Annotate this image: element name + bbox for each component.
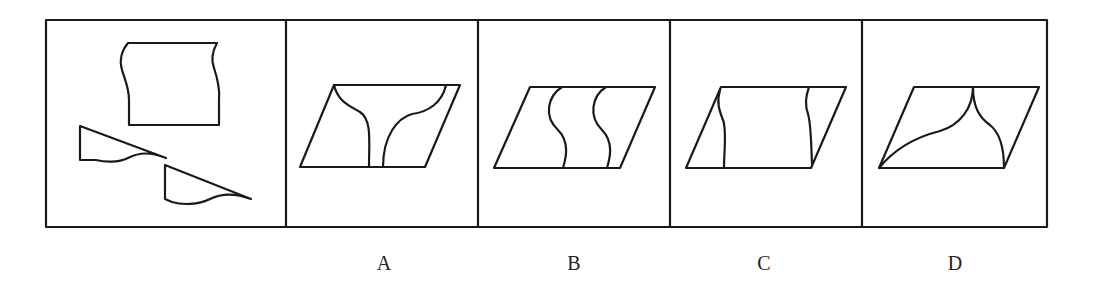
puzzle-figure (0, 0, 1097, 302)
small-triangle-piece (80, 126, 166, 162)
option-c-label[interactable]: C (744, 252, 784, 275)
option-c-figure[interactable] (686, 87, 846, 168)
parallelogram (300, 85, 460, 167)
wavy-line-left (718, 90, 725, 168)
s-curve-right (593, 87, 610, 168)
parallelogram (686, 87, 846, 168)
curve-left (334, 85, 369, 167)
option-b-figure[interactable] (494, 87, 655, 168)
option-d-label[interactable]: D (935, 252, 975, 275)
outer-frame (46, 20, 1047, 227)
parallelogram (494, 87, 655, 168)
s-curve-left (549, 87, 566, 168)
curve-right (383, 85, 446, 167)
question-panel (80, 43, 251, 204)
wavy-rectangle-piece (121, 43, 219, 125)
option-d-figure[interactable] (879, 87, 1039, 168)
wavy-line-right (806, 87, 812, 164)
option-a-figure[interactable] (300, 85, 460, 167)
large-triangle-piece (165, 165, 251, 204)
option-b-label[interactable]: B (554, 252, 594, 275)
curve-right (973, 87, 1004, 168)
option-a-label[interactable]: A (364, 252, 404, 275)
parallelogram (879, 87, 1039, 168)
curve-left (879, 87, 973, 168)
